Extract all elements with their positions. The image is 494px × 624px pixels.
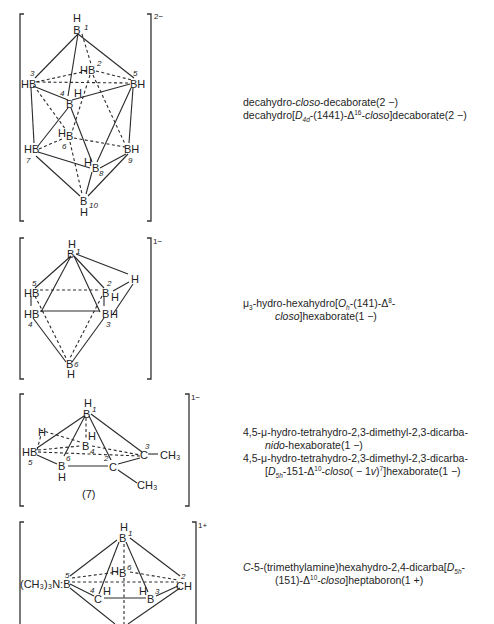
dicarba-hexaborate-structure: 1− H B 1 H H B 4 HB 5 B 6 H 2: [0, 388, 240, 513]
charge-label: 1−: [191, 393, 200, 402]
name-line: [D5h-151-Δ10-closo( − 1v)7]hexaborate(1 …: [243, 465, 493, 478]
svg-text:HB: HB: [24, 287, 39, 299]
name-fragment: closo: [365, 109, 390, 121]
name-fragment: D: [268, 465, 276, 477]
name-fragment: C: [243, 561, 251, 573]
atom-b4: HB 4: [24, 308, 39, 329]
svg-text:9: 9: [128, 156, 133, 165]
atom-b4: H B 4: [82, 430, 96, 456]
svg-text:B: B: [119, 532, 126, 544]
name-fragment: 4d: [303, 116, 310, 123]
svg-text:2: 2: [96, 59, 102, 68]
svg-text:CH: CH: [176, 580, 192, 592]
svg-text:B: B: [67, 248, 74, 260]
name-line: decahydro[D4d-(1441)-Δ16-closo]decaborat…: [243, 109, 493, 122]
svg-text:1: 1: [128, 529, 132, 538]
svg-text:H: H: [111, 565, 119, 577]
name-fragment: (151)-Δ: [275, 574, 310, 586]
name-fragment: -(141)-Δ: [350, 297, 389, 309]
name-fragment: closo: [275, 310, 300, 322]
atom-b6: B 6 H: [58, 454, 71, 483]
svg-text:H: H: [74, 87, 82, 99]
atom-c4: 4 C H: [90, 585, 111, 605]
name-fragment: -: [462, 561, 466, 573]
svg-text:H: H: [73, 12, 81, 24]
atom-b5: HB 5: [22, 446, 37, 467]
name-fragment: closo: [296, 96, 321, 108]
compound-number: (7): [82, 488, 95, 500]
name-fragment: ]hexaborate(1 −): [300, 310, 377, 322]
svg-text:H: H: [111, 291, 119, 303]
atom-b2: H B 2: [80, 59, 102, 76]
atom-b3: B H 3: [102, 308, 118, 329]
atom-c3: 3 C CH₃: [140, 442, 180, 461]
name-fragment: decahydro-: [243, 96, 296, 108]
svg-text:B: B: [73, 24, 80, 36]
svg-text:3: 3: [106, 320, 111, 329]
atom-b9: BH 9: [124, 143, 139, 165]
name-fragment: -(1441)-Δ: [310, 109, 354, 121]
svg-text:1: 1: [92, 405, 96, 414]
name-fragment: nido: [265, 439, 285, 451]
svg-text:B: B: [82, 440, 89, 452]
name-fragment: -hydro-hexahydro[: [253, 297, 338, 309]
svg-text:B: B: [102, 308, 109, 320]
atom-b5: 5 BH: [130, 69, 145, 90]
svg-text:6: 6: [127, 563, 132, 572]
svg-text:BH: BH: [124, 143, 139, 155]
atom-b1: H B 1: [119, 521, 132, 544]
atom-mu-h: H: [131, 273, 139, 285]
svg-text:7: 7: [26, 156, 31, 165]
svg-text:H: H: [58, 127, 66, 139]
svg-text:(CH₃)₃N:B: (CH₃)₃N:B: [20, 578, 71, 590]
svg-text:B: B: [102, 287, 109, 299]
decaborate-structure: 2− H B 1 H B 2 3: [0, 0, 240, 230]
bracket-left: [20, 522, 24, 624]
name-fragment: 4,5-μ-hydro-tetrahydro-2,3-dimethyl-2,3-…: [243, 452, 468, 464]
dicarba-hexaborate-names: 4,5-μ-hydro-tetrahydro-2,3-dimethyl-2,3-…: [243, 426, 493, 478]
svg-text:H: H: [84, 156, 92, 168]
svg-text:H: H: [80, 206, 88, 218]
name-fragment: D: [295, 109, 303, 121]
atom-b5: 5 HB: [24, 279, 39, 299]
svg-text:B: B: [147, 593, 154, 605]
name-fragment: O: [338, 297, 346, 309]
heptaboron-names: C-5-(trimethylamine)hexahydro-2,4-dicarb…: [243, 561, 493, 587]
svg-text:B: B: [66, 98, 73, 110]
atom-b7: HB 7: [24, 143, 39, 165]
name-fragment: ]hexaborate(1 −): [383, 465, 460, 477]
name-fragment: ( − 1: [350, 465, 371, 477]
atom-b6: H B 6: [58, 127, 73, 151]
name-line: decahydro-closo-decaborate(2 −): [243, 96, 493, 109]
svg-text:3: 3: [155, 587, 160, 596]
svg-text:4: 4: [90, 447, 95, 456]
name-fragment: -5-(trimethylamine)hexahydro-2,4-dicarba…: [251, 561, 447, 573]
svg-text:8: 8: [99, 169, 104, 178]
bracket-right: [147, 14, 151, 221]
bracket-right: [185, 394, 189, 506]
atom-b2: 2 B H: [102, 279, 119, 303]
svg-text:HB: HB: [21, 78, 36, 90]
name-line: 4,5-μ-hydro-tetrahydro-2,3-dimethyl-2,3-…: [243, 426, 493, 439]
name-fragment: 4,5-μ-hydro-tetrahydro-2,3-dimethyl-2,3-…: [243, 426, 468, 438]
name-fragment: 5h: [454, 568, 461, 575]
atom-mu-h: H: [38, 426, 46, 438]
svg-text:C: C: [94, 593, 102, 605]
atom-b10: B 10 H: [80, 195, 98, 218]
bonds: [70, 538, 180, 624]
bonds: [31, 34, 134, 196]
name-line: nido-hexaborate(1 −): [243, 439, 493, 452]
svg-text:1: 1: [84, 23, 88, 32]
svg-text:4: 4: [60, 89, 65, 98]
name-fragment: closo: [325, 465, 350, 477]
hexaborate-structure: 1− H B 1 H 2 B H B H 3 HB 4 5: [0, 234, 240, 384]
name-fragment: ]heptaboron(1 +): [345, 574, 423, 586]
atom-b6: B 6 H: [66, 358, 79, 380]
svg-text:CH₃: CH₃: [160, 449, 180, 461]
svg-text:5: 5: [133, 69, 138, 78]
bracket-right: [192, 522, 196, 624]
svg-text:H: H: [58, 471, 66, 483]
svg-text:H: H: [80, 64, 88, 76]
name-fragment: -decaborate(2 −): [320, 96, 398, 108]
atom-b5: 5 (CH₃)₃N:B: [20, 571, 71, 590]
